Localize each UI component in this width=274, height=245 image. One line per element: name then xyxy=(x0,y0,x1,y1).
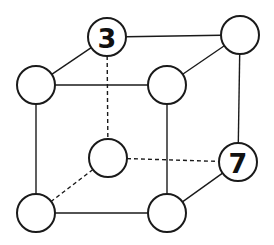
edge-back-top-right-to-back-bottom-right xyxy=(238,54,239,143)
node-front-top-left xyxy=(17,66,55,104)
edge-back-top-left-to-back-bottom-left xyxy=(107,56,108,139)
edge-back-top-left-to-back-top-right xyxy=(126,35,221,36)
edge-back-top-right-to-front-top-right xyxy=(183,46,225,75)
edge-back-top-left-to-front-top-left xyxy=(52,48,92,75)
node-circle xyxy=(17,66,55,104)
node-label: 7 xyxy=(229,148,248,179)
node-front-bottom-right xyxy=(148,194,186,232)
node-front-top-right xyxy=(148,66,186,104)
node-label: 3 xyxy=(98,23,117,54)
edge-front-bottom-right-to-back-bottom-right xyxy=(182,173,222,202)
node-circle xyxy=(148,66,186,104)
node-circle xyxy=(17,194,55,232)
node-back-bottom-right: 7 xyxy=(219,143,257,181)
node-back-bottom-left xyxy=(89,139,127,177)
cube-edges xyxy=(36,35,240,213)
node-back-top-right xyxy=(221,16,259,54)
edge-back-bottom-left-to-back-bottom-right xyxy=(127,159,219,162)
node-front-bottom-left xyxy=(17,194,55,232)
node-circle xyxy=(89,139,127,177)
node-circle xyxy=(148,194,186,232)
node-back-top-left: 3 xyxy=(88,18,126,56)
cube-diagram: 37 xyxy=(0,0,274,245)
node-circle xyxy=(221,16,259,54)
edge-back-bottom-left-to-front-bottom-left xyxy=(51,170,93,202)
